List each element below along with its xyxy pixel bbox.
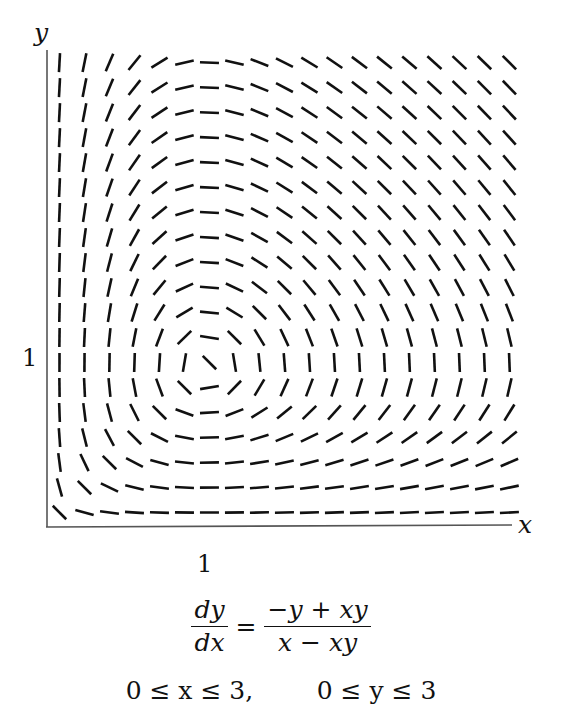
slope-segment bbox=[478, 106, 491, 120]
slope-segment bbox=[456, 304, 463, 322]
slope-segment bbox=[457, 328, 462, 346]
slope-segment bbox=[109, 378, 111, 397]
slope-segment bbox=[479, 205, 491, 220]
slope-segment bbox=[153, 280, 165, 295]
slope-segment bbox=[58, 453, 60, 472]
slope-segment bbox=[452, 56, 466, 69]
slope-segment bbox=[176, 409, 194, 416]
x-range: 0 ≤ x ≤ 3, bbox=[126, 676, 254, 705]
x-tick-label: 1 bbox=[197, 550, 212, 578]
slope-segment bbox=[431, 304, 439, 321]
slope-segment bbox=[453, 156, 466, 170]
slope-segment bbox=[200, 187, 219, 188]
slope-segment bbox=[175, 235, 193, 241]
slope-segment bbox=[503, 155, 515, 169]
slope-segment bbox=[479, 405, 489, 421]
slope-segment bbox=[353, 206, 366, 219]
slope-segment bbox=[402, 56, 416, 68]
slope-segment bbox=[200, 237, 219, 238]
slope-segment bbox=[500, 512, 519, 513]
slope-segment bbox=[327, 132, 342, 143]
slope-segment bbox=[478, 155, 491, 169]
slope-segment bbox=[382, 378, 387, 396]
slope-segment bbox=[428, 156, 441, 170]
slope-segment bbox=[504, 205, 515, 220]
slope-segment bbox=[429, 405, 440, 421]
slope-segment bbox=[403, 205, 416, 219]
slope-segment bbox=[150, 512, 169, 513]
slope-segment bbox=[226, 284, 243, 292]
slope-segment bbox=[407, 328, 412, 346]
slope-segment bbox=[250, 435, 268, 441]
slope-segment bbox=[376, 432, 392, 442]
slope-segment bbox=[152, 132, 168, 143]
slope-segment bbox=[403, 181, 416, 195]
slope-segment bbox=[380, 304, 388, 321]
slope-segment bbox=[200, 336, 219, 339]
slope-segment bbox=[126, 458, 143, 467]
slope-segment bbox=[378, 206, 391, 220]
slope-segment bbox=[276, 133, 293, 142]
slope-segment bbox=[225, 135, 243, 140]
slope-segment bbox=[402, 81, 416, 94]
slope-segment bbox=[105, 429, 114, 446]
differential-equation: dy dx = −y + xy x − xy bbox=[0, 596, 562, 657]
slope-segment bbox=[377, 82, 392, 94]
slope-segment bbox=[106, 179, 112, 197]
slope-segment bbox=[255, 329, 265, 345]
slope-segment bbox=[129, 155, 140, 171]
slope-segment bbox=[403, 156, 416, 169]
slope-segment bbox=[130, 204, 140, 220]
slope-segment bbox=[152, 207, 167, 219]
slope-segment bbox=[351, 433, 367, 443]
slope-segment bbox=[107, 278, 111, 297]
slope-segment bbox=[353, 231, 366, 245]
slope-segment bbox=[478, 131, 491, 145]
slope-segment bbox=[353, 405, 365, 420]
slope-segment bbox=[152, 182, 167, 194]
slope-segment bbox=[302, 157, 318, 168]
slope-segment bbox=[429, 230, 440, 245]
slope-segment bbox=[129, 105, 141, 120]
slope-segment bbox=[59, 178, 60, 197]
slope-segment bbox=[251, 208, 268, 217]
slope-segment bbox=[59, 103, 60, 122]
slope-segment bbox=[301, 107, 317, 117]
slope-segment bbox=[426, 459, 444, 466]
slope-segment bbox=[107, 204, 113, 222]
slope-segment bbox=[378, 181, 391, 194]
slope-segment bbox=[479, 254, 489, 270]
slope-segment bbox=[152, 231, 166, 244]
slope-segment bbox=[150, 460, 168, 465]
y-axis-label: y bbox=[34, 18, 48, 47]
slope-segment bbox=[200, 312, 219, 314]
slope-segment bbox=[405, 279, 415, 295]
slope-segment bbox=[200, 137, 219, 138]
y-tick-label: 1 bbox=[22, 344, 37, 372]
slope-segment bbox=[280, 329, 288, 346]
slope-segment bbox=[276, 434, 294, 441]
slope-segment bbox=[459, 353, 460, 372]
slope-segment bbox=[275, 487, 294, 489]
slope-segment bbox=[425, 512, 444, 513]
slope-segment bbox=[84, 278, 86, 297]
slope-segment bbox=[430, 279, 439, 296]
slope-segment bbox=[327, 181, 342, 193]
slope-segment bbox=[275, 512, 294, 513]
slope-segment bbox=[57, 478, 62, 496]
slope-segment bbox=[59, 153, 60, 172]
slope-segment bbox=[200, 437, 219, 438]
slope-segment bbox=[83, 128, 86, 147]
slope-segment bbox=[84, 303, 85, 322]
slope-segment bbox=[455, 279, 464, 296]
slope-segment bbox=[133, 378, 136, 397]
slope-segment bbox=[175, 160, 193, 165]
slope-segment bbox=[156, 329, 163, 347]
slope-segment bbox=[131, 279, 138, 297]
slope-segment bbox=[480, 279, 489, 296]
slope-segment bbox=[357, 328, 363, 346]
slope-segment bbox=[107, 228, 112, 246]
slope-segment bbox=[501, 459, 518, 466]
slope-segment bbox=[304, 305, 314, 321]
slope-segment bbox=[225, 110, 243, 115]
